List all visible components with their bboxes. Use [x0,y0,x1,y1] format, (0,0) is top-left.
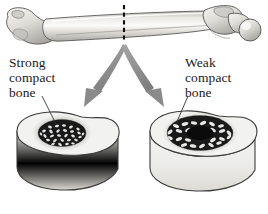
femur-condyle-detail-lower [13,29,28,40]
weak-label-line-3: bone [185,85,231,100]
arrow-right [122,44,164,107]
strong-bone-spongy-texture [38,120,86,147]
weak-bone-spongy-texture [167,116,233,151]
strong-label-line-3: bone [9,85,55,100]
femur-head [239,19,261,41]
femur-condyle-detail [12,11,24,19]
bone-density-figure: Strong compact bone Weak compact bone [0,0,268,214]
arrow-right-head [145,88,164,107]
arrow-left-shaft [93,44,126,93]
strong-compact-bone-label: Strong compact bone [9,55,55,100]
figure-illustration [0,0,268,214]
arrow-left [84,44,126,107]
weak-label-line-1: Weak [185,55,231,70]
strong-label-line-2: compact [9,70,55,85]
arrow-right-shaft [122,44,154,93]
weak-bone-marrow-cavity [187,126,214,140]
strong-compact-bone-cross-section [17,96,119,190]
strong-label-line-1: Strong [9,55,55,70]
arrow-left-head [84,88,103,107]
weak-compact-bone-cross-section [150,96,257,191]
weak-label-line-2: compact [185,70,231,85]
weak-compact-bone-label: Weak compact bone [185,55,231,100]
femur-bone-illustration [7,6,261,44]
femur-head-highlight [241,22,251,30]
